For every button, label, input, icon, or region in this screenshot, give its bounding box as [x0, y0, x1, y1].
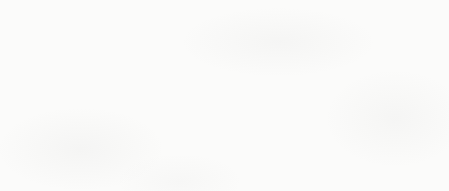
scale-bar-true: [23, 154, 63, 163]
scale-label-corrected: φVγmax: [311, 166, 340, 178]
gamma-profile-true: [22, 55, 48, 146]
scale-label-subscript-assumed: max: [179, 171, 192, 180]
gamma-profile-corrected: [313, 55, 329, 147]
scale-bar-corrected: [314, 154, 336, 163]
scale-label-true: γmax: [31, 166, 49, 178]
angle-label-symbol-assumed: γ: [251, 88, 256, 100]
angle-label-corrected: φVγmax: [399, 88, 428, 100]
panel-assumed: Assumed γ u: [146, 0, 298, 191]
scale-label-subscript-corrected: max: [327, 171, 340, 180]
angle-label-assumed: γmax: [251, 88, 269, 100]
angle-wedge-assumed: [228, 89, 250, 99]
angle-label-subscript-assumed: max: [256, 93, 269, 102]
scale-label-subscript-true: max: [36, 171, 49, 180]
angle-label-symbol-true: γ: [107, 88, 112, 100]
scale-label-symbol-assumed: γ: [174, 166, 179, 178]
u-displacement-line-assumed: [204, 50, 258, 152]
gamma-profile-assumed: [165, 55, 191, 147]
panel-true: True γ u: [0, 0, 150, 191]
angle-wedge-true: [84, 89, 106, 99]
scale-label-symbol-true: γ: [31, 166, 36, 178]
scale-label-prefix-subscript-corrected: V: [317, 171, 322, 180]
angle-label-subscript-true: max: [112, 93, 125, 102]
scale-label-assumed: γmax: [174, 166, 192, 178]
angle-label-true: γmax: [107, 88, 125, 100]
panel-true-graphic: [0, 0, 150, 191]
angle-label-subscript-corrected: max: [415, 93, 428, 102]
panel-assumed-graphic: [146, 0, 298, 191]
panel-corrected: Corrected γ u: [296, 0, 449, 191]
shear-strain-profile-figure: True γ u: [0, 0, 449, 191]
scale-bar-assumed: [166, 154, 206, 163]
angle-label-prefix-subscript-corrected: V: [405, 93, 410, 102]
